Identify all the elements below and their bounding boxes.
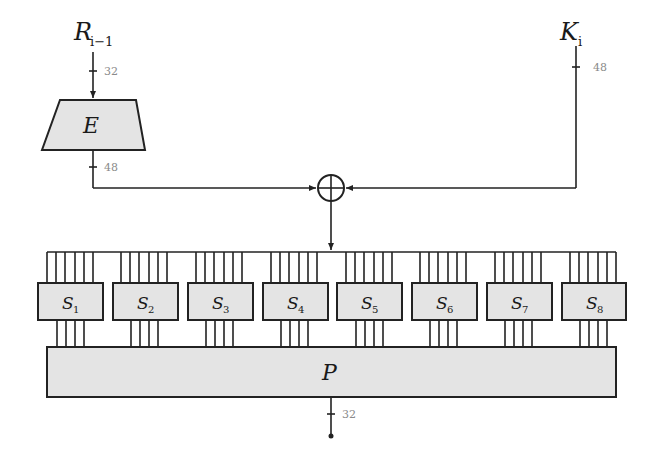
k-width-label: 48 [593,61,607,74]
svg-text:7: 7 [522,304,528,315]
svg-text:S: S [62,293,74,313]
des-f-function-diagram: R i−1 32 E 48 K i 48 S 1 [0,0,652,467]
svg-text:8: 8 [597,304,603,315]
sbox-7: S 7 [487,252,552,347]
sbox-2: S 2 [113,252,178,347]
svg-text:S: S [287,293,299,313]
expansion-label: E [82,113,99,138]
sbox-row: S 1 S 2 S 3 S 4 [38,252,626,347]
sbox-4: S 4 [263,252,328,347]
output-terminal-dot [329,434,334,439]
svg-text:S: S [137,293,149,313]
r-width-label: 32 [104,65,118,78]
e-width-label: 48 [104,161,118,174]
k-input-subscript: i [578,34,582,49]
permutation-box: P [47,347,616,397]
expansion-box: E [42,100,145,150]
sbox-8: S 8 [562,252,626,347]
svg-text:S: S [436,293,448,313]
sbox-5: S 5 [337,252,402,347]
sbox-1: S 1 [38,252,103,347]
svg-text:6: 6 [447,304,453,315]
svg-text:1: 1 [73,304,79,315]
r-input-subscript: i−1 [90,34,113,49]
sbox-3: S 3 [188,252,253,347]
k-input: K i 48 [346,18,607,188]
r-input: R i−1 32 [73,18,118,98]
svg-text:S: S [586,293,598,313]
svg-text:4: 4 [298,304,304,315]
svg-text:3: 3 [223,304,229,315]
svg-text:S: S [212,293,224,313]
p-width-label: 32 [342,408,356,421]
sbox-6: S 6 [412,252,477,347]
svg-text:2: 2 [148,304,154,315]
svg-text:S: S [511,293,523,313]
xor-node [318,175,344,201]
svg-text:5: 5 [372,304,378,315]
k-input-label: K [559,18,580,46]
svg-text:S: S [361,293,373,313]
permutation-label: P [321,360,338,385]
